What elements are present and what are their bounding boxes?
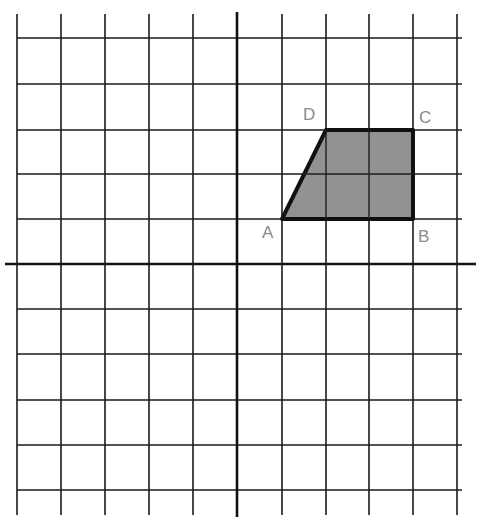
vertex-label-b: B [418,227,429,246]
coordinate-grid-diagram: ABCD [0,0,480,525]
grid-canvas: ABCD [0,0,480,525]
vertex-label-c: C [419,108,431,127]
vertex-label-d: D [303,105,315,124]
vertex-label-a: A [262,223,274,242]
